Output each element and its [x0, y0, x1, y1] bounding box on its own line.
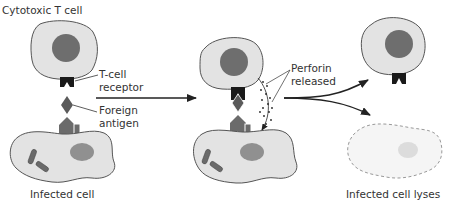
lysed-cell-body — [348, 124, 442, 178]
cytotoxic-t-cell-label: Cytotoxic T cell — [2, 4, 82, 16]
t-cell-receptor-label-line1: T-cell — [98, 68, 126, 80]
stage-perforin-release: Perforin released — [194, 38, 336, 183]
t-cell-receptor-icon — [392, 73, 406, 84]
infected-cell-nucleus — [240, 143, 264, 161]
outcome-arrow-down — [284, 98, 370, 115]
foreign-antigen-label-line2: antigen — [99, 117, 139, 129]
infected-cell-label: Infected cell — [30, 188, 94, 200]
infected-cell-lyses-label: Infected cell lyses — [346, 188, 440, 200]
surviving-t-cell-nucleus — [385, 30, 413, 58]
t-cell-receptor-label-line2: receptor — [99, 81, 144, 93]
infected-cell-nucleus — [70, 143, 94, 161]
infected-cell-body — [10, 131, 115, 182]
perforin-label-line1: Perforin — [291, 62, 332, 74]
perforin-granules — [259, 81, 273, 125]
foreign-antigen-icon — [61, 96, 73, 114]
t-cell-receptor-icon — [60, 77, 74, 87]
stage-outcome: Infected cell lyses — [346, 18, 442, 200]
t-cell-nucleus — [220, 48, 248, 76]
foreign-antigen-leader — [73, 105, 97, 112]
t-cell-nucleus — [52, 34, 80, 62]
perforin-leader — [272, 70, 290, 102]
lysed-cell-nucleus — [398, 142, 418, 158]
cytotoxic-t-cell-diagram: Cytotoxic T cell T-cell receptor Foreign… — [0, 0, 450, 207]
stage-recognition: Cytotoxic T cell T-cell receptor Foreign… — [2, 4, 144, 200]
foreign-antigen-label-line1: Foreign — [99, 104, 138, 116]
perforin-label-line2: released — [291, 75, 336, 87]
